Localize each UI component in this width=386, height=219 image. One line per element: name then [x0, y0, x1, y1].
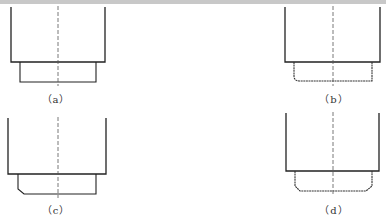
panel-c-bottom-step [18, 174, 96, 194]
panel-c-label: （c） [42, 202, 71, 217]
cup-profiles-diagram [0, 0, 386, 219]
panel-b-outer-wall [285, 7, 380, 62]
panel-a-drawing [11, 6, 105, 86]
panel-b-label: （b） [319, 91, 348, 106]
panel-c-drawing [8, 117, 106, 198]
panel-d-bottom-step [295, 171, 372, 191]
panel-a-label: （a） [42, 91, 71, 106]
panel-d-label: （d） [319, 202, 348, 217]
panel-b-drawing [285, 6, 380, 86]
panel-d-outer-wall [286, 113, 379, 171]
panel-d-drawing [286, 112, 379, 196]
panel-c-outer-wall [8, 118, 106, 174]
